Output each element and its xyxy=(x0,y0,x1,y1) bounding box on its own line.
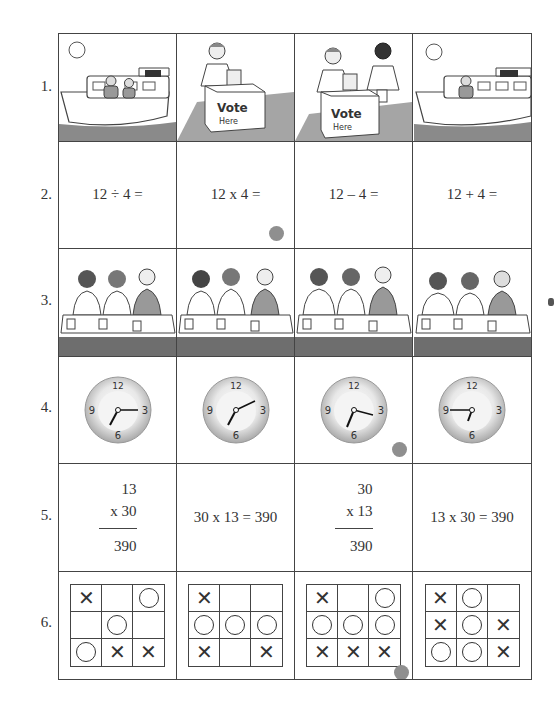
answer-cell-6b[interactable]: ✕✕✕ xyxy=(177,572,295,680)
result-divider xyxy=(335,528,373,529)
answer-cell-4a[interactable]: 12 3 6 9 xyxy=(59,357,177,465)
board-square: ✕ xyxy=(488,639,519,666)
answer-cell-5a[interactable]: 13 x 30 390 xyxy=(59,464,177,572)
board-square xyxy=(426,639,457,666)
equation-text: 12 + 4 = xyxy=(447,186,498,203)
x-mark-icon: ✕ xyxy=(432,588,449,608)
equation-text: 12 – 4 = xyxy=(329,186,379,203)
voting-scene-two-men-illustration: Vote Here xyxy=(295,34,412,141)
answer-cell-6c[interactable]: ✕✕✕✕ xyxy=(295,572,413,680)
x-mark-icon: ✕ xyxy=(345,642,362,662)
answer-cell-5b[interactable]: 30 x 13 = 390 xyxy=(177,464,295,572)
board-square xyxy=(369,612,400,639)
answer-cell-2c[interactable]: 12 – 4 = xyxy=(295,142,413,250)
tictactoe-board: ✕✕✕✕ xyxy=(425,584,520,667)
svg-text:6: 6 xyxy=(232,430,238,441)
o-mark-icon xyxy=(462,588,482,608)
equation-text: 12 ÷ 4 = xyxy=(92,186,142,203)
board-square xyxy=(369,585,400,612)
answer-cell-3d[interactable] xyxy=(413,249,531,357)
board-square xyxy=(338,585,369,612)
result-divider xyxy=(99,528,137,529)
vertical-multiplication: 13 x 30 390 xyxy=(99,478,137,557)
board-square xyxy=(338,612,369,639)
board-square: ✕ xyxy=(307,639,338,666)
x-mark-icon: ✕ xyxy=(376,642,393,662)
o-mark-icon xyxy=(343,615,363,635)
answer-cell-1b[interactable]: Vote Here xyxy=(177,34,295,142)
board-square xyxy=(251,612,282,639)
row-label-1: 1. xyxy=(0,78,52,95)
board-square xyxy=(220,639,251,666)
boat-scene-one-person-illustration xyxy=(414,34,531,141)
svg-text:9: 9 xyxy=(88,405,94,416)
x-mark-icon: ✕ xyxy=(78,588,95,608)
o-mark-icon xyxy=(225,615,245,635)
x-mark-icon: ✕ xyxy=(314,642,331,662)
board-square xyxy=(220,612,251,639)
voting-scene-illustration: Vote Here xyxy=(177,34,294,141)
board-square xyxy=(457,612,488,639)
board-square: ✕ xyxy=(338,639,369,666)
o-mark-icon xyxy=(462,642,482,662)
svg-text:9: 9 xyxy=(324,405,330,416)
board-square xyxy=(102,612,133,639)
tictactoe-board: ✕✕✕✕ xyxy=(306,584,401,667)
board-square: ✕ xyxy=(426,585,457,612)
board-square xyxy=(133,585,164,612)
one-person-eating-illustration xyxy=(177,249,294,356)
o-mark-icon xyxy=(431,642,451,662)
svg-text:12: 12 xyxy=(348,381,359,391)
board-square xyxy=(220,585,251,612)
row-label-6: 6. xyxy=(0,614,52,631)
product: 390 xyxy=(350,535,373,557)
answer-cell-2b[interactable]: 12 x 4 = xyxy=(177,142,295,250)
x-mark-icon: ✕ xyxy=(495,615,512,635)
o-mark-icon xyxy=(462,615,482,635)
board-square xyxy=(102,585,133,612)
answer-cell-2a[interactable]: 12 ÷ 4 = xyxy=(59,142,177,250)
row-label-2: 2. xyxy=(0,186,52,203)
board-square xyxy=(488,585,519,612)
selection-mark-dot xyxy=(269,226,284,241)
answer-cell-5c[interactable]: 30 x 13 390 xyxy=(295,464,413,572)
x-mark-icon: ✕ xyxy=(432,615,449,635)
answer-cell-4b[interactable]: 12 3 6 9 xyxy=(177,357,295,465)
x-mark-icon: ✕ xyxy=(140,642,157,662)
o-mark-icon xyxy=(375,615,395,635)
svg-text:3: 3 xyxy=(259,405,265,416)
answer-cell-6d[interactable]: ✕✕✕✕ xyxy=(413,572,531,680)
svg-text:6: 6 xyxy=(350,430,356,441)
answer-cell-4d[interactable]: 12 3 6 9 xyxy=(413,357,531,465)
svg-text:12: 12 xyxy=(466,381,477,391)
row-label-4: 4. xyxy=(0,399,52,416)
answer-cell-3c[interactable] xyxy=(295,249,413,357)
answer-cell-3b[interactable] xyxy=(177,249,295,357)
o-mark-icon xyxy=(375,588,395,608)
no-one-eating-illustration xyxy=(295,249,412,356)
answer-cell-5d[interactable]: 13 x 30 = 390 xyxy=(413,464,531,572)
board-square xyxy=(71,639,102,666)
row-label-3: 3. xyxy=(0,292,52,309)
board-square: ✕ xyxy=(102,639,133,666)
answer-cell-1a[interactable] xyxy=(59,34,177,142)
three-people-eating-illustration xyxy=(59,249,176,356)
board-square xyxy=(457,585,488,612)
answer-cell-6a[interactable]: ✕✕✕ xyxy=(59,572,177,680)
x-mark-icon: ✕ xyxy=(196,588,213,608)
answer-cell-1c[interactable]: Vote Here xyxy=(295,34,413,142)
answer-cell-3a[interactable] xyxy=(59,249,177,357)
answer-cell-4c[interactable]: 12 3 6 9 xyxy=(295,357,413,465)
selection-mark-dot xyxy=(392,442,407,457)
board-square xyxy=(189,612,220,639)
svg-text:9: 9 xyxy=(443,405,449,416)
board-square: ✕ xyxy=(133,639,164,666)
row-label-5: 5. xyxy=(0,507,52,524)
o-mark-icon xyxy=(76,642,96,662)
boat-scene-illustration xyxy=(59,34,176,141)
answer-cell-2d[interactable]: 12 + 4 = xyxy=(413,142,531,250)
answer-cell-1d[interactable] xyxy=(413,34,531,142)
x-mark-icon: ✕ xyxy=(109,642,126,662)
board-square: ✕ xyxy=(189,585,220,612)
worksheet-grid: Vote Here Vote Here xyxy=(58,33,532,680)
